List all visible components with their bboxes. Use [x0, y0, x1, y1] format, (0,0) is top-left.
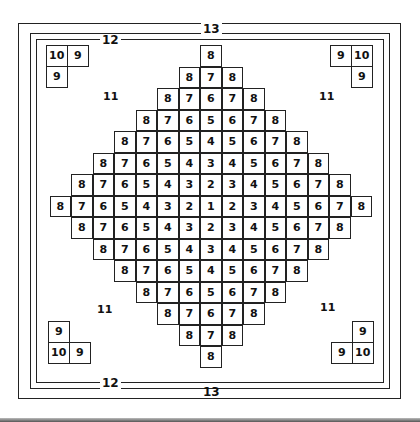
- grid-cell: 8: [114, 260, 136, 282]
- grid-cell: 6: [200, 303, 222, 325]
- grid-cell: 7: [329, 196, 351, 218]
- grid-cell: 6: [157, 131, 179, 153]
- corner-cell-br-9a: 9: [331, 342, 353, 364]
- grid-cell: 6: [286, 217, 308, 239]
- grid-cell: 4: [222, 153, 244, 175]
- grid-cell: 4: [265, 196, 287, 218]
- grid-cell: 4: [243, 217, 265, 239]
- grid-cell: 7: [136, 131, 158, 153]
- grid-cell: 6: [179, 282, 201, 304]
- frame-label-13-top: 13: [201, 23, 222, 35]
- grid-cell: 4: [179, 153, 201, 175]
- grid-cell: 8: [136, 282, 158, 304]
- grid-cell: 7: [93, 174, 115, 196]
- grid-cell: 8: [222, 67, 244, 89]
- grid-cell: 6: [136, 153, 158, 175]
- grid-cell: 8: [286, 260, 308, 282]
- grid-cell: 6: [222, 110, 244, 132]
- grid-cell: 3: [179, 174, 201, 196]
- corner-cell-br-9b: 9: [352, 321, 374, 343]
- grid-cell: 2: [179, 196, 201, 218]
- grid-cell: 5: [179, 260, 201, 282]
- grid-cell: 6: [265, 239, 287, 261]
- grid-cell: 5: [157, 239, 179, 261]
- grid-cell: 7: [308, 174, 330, 196]
- grid-cell: 4: [157, 174, 179, 196]
- grid-cell: 7: [265, 260, 287, 282]
- corner-cell-tr-9b: 9: [351, 66, 373, 88]
- grid-cell: 7: [93, 217, 115, 239]
- grid-cell: 8: [50, 196, 72, 218]
- grid-cell: 7: [114, 153, 136, 175]
- grid-cell: 6: [136, 239, 158, 261]
- grid-cell: 6: [200, 88, 222, 110]
- grid-cell: 8: [222, 325, 244, 347]
- grid-cell: 7: [308, 217, 330, 239]
- grid-cell: 3: [222, 174, 244, 196]
- grid-cell: 4: [200, 260, 222, 282]
- grid-cell: 8: [243, 88, 265, 110]
- grid-cell: 7: [286, 239, 308, 261]
- grid-cell: 4: [179, 239, 201, 261]
- grid-cell: 6: [243, 260, 265, 282]
- corner-cell-tr-10: 10: [351, 45, 373, 67]
- region-label-br: 11: [320, 301, 335, 314]
- grid-cell: 7: [71, 196, 93, 218]
- grid-cell: 8: [329, 217, 351, 239]
- grid-cell: 6: [243, 131, 265, 153]
- grid-cell: 7: [157, 110, 179, 132]
- grid-cell: 3: [200, 239, 222, 261]
- grid-cell: 5: [157, 153, 179, 175]
- grid-cell: 6: [308, 196, 330, 218]
- grid-cell: 5: [200, 110, 222, 132]
- grid-cell: 8: [157, 88, 179, 110]
- grid-cell: 2: [200, 217, 222, 239]
- grid-cell: 8: [308, 153, 330, 175]
- grid-cell: 7: [136, 260, 158, 282]
- grid-cell: 7: [222, 88, 244, 110]
- grid-cell: 5: [136, 217, 158, 239]
- grid-cell: 8: [179, 67, 201, 89]
- corner-cell-br-10: 10: [352, 342, 374, 364]
- frame-label-13-bottom: 13: [201, 386, 222, 398]
- grid-cell: 5: [265, 217, 287, 239]
- grid-cell: 8: [93, 239, 115, 261]
- corner-cell-tl-9b: 9: [46, 66, 68, 88]
- corner-cell-tl-10: 10: [46, 45, 68, 67]
- grid-cell: 8: [93, 153, 115, 175]
- grid-cell: 2: [222, 196, 244, 218]
- grid-cell: 7: [265, 131, 287, 153]
- grid-cell: 7: [200, 67, 222, 89]
- region-label-tr: 11: [319, 90, 334, 103]
- grid-cell: 5: [200, 282, 222, 304]
- grid-cell: 6: [286, 174, 308, 196]
- bottom-edge-bar: [0, 418, 420, 422]
- grid-cell: 6: [93, 196, 115, 218]
- grid-cell: 7: [157, 282, 179, 304]
- grid-cell: 5: [265, 174, 287, 196]
- frame-label-12-bottom: 12: [100, 377, 121, 389]
- grid-cell: 2: [200, 174, 222, 196]
- grid-cell: 6: [222, 282, 244, 304]
- grid-cell: 5: [136, 174, 158, 196]
- grid-cell: 7: [243, 282, 265, 304]
- grid-cell: 5: [179, 131, 201, 153]
- grid-cell: 1: [200, 196, 222, 218]
- grid-cell: 8: [114, 131, 136, 153]
- grid-cell: 6: [265, 153, 287, 175]
- grid-cell: 5: [222, 260, 244, 282]
- frame-label-12-top: 12: [100, 34, 121, 46]
- grid-cell: 8: [265, 282, 287, 304]
- grid-cell: 7: [114, 239, 136, 261]
- corner-cell-tl-9a: 9: [67, 45, 89, 67]
- region-label-tl: 11: [103, 90, 118, 103]
- grid-cell: 8: [71, 217, 93, 239]
- corner-cell-bl-10: 10: [48, 342, 70, 364]
- grid-cell: 4: [200, 131, 222, 153]
- grid-cell: 7: [222, 303, 244, 325]
- grid-cell: 3: [200, 153, 222, 175]
- grid-cell: 7: [200, 325, 222, 347]
- grid-cell: 8: [71, 174, 93, 196]
- grid-cell: 8: [200, 346, 222, 368]
- grid-cell: 3: [157, 196, 179, 218]
